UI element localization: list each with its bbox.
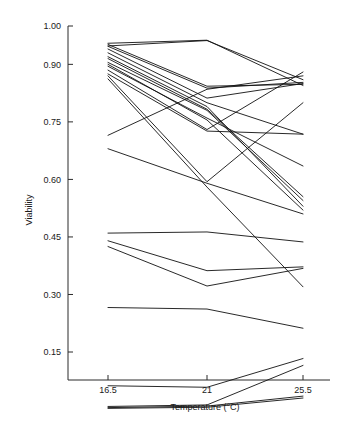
- y-tick-label: 0.75: [43, 117, 61, 127]
- y-tick-label: 0.15: [43, 347, 61, 357]
- viability-temperature-chart: 1.000.900.750.600.450.300.15 16.52125.5 …: [0, 0, 337, 434]
- series-line: [108, 40, 303, 85]
- series-line: [108, 66, 303, 166]
- series-line: [108, 247, 303, 287]
- x-axis-title: Temperature (°C): [170, 402, 239, 412]
- series-line: [108, 241, 303, 271]
- y-axis-title: Viability: [24, 194, 34, 225]
- chart-canvas: 1.000.900.750.600.450.300.15 16.52125.5 …: [0, 0, 337, 434]
- series-line: [108, 308, 303, 329]
- x-tick-label: 16.5: [99, 385, 117, 395]
- y-tick-label: 0.30: [43, 290, 61, 300]
- series-line: [108, 359, 303, 388]
- series-line: [108, 57, 303, 207]
- y-tick-label: 0.60: [43, 175, 61, 185]
- y-axis-ticks: 1.000.900.750.600.450.300.15: [43, 21, 73, 357]
- x-tick-label: 25.5: [294, 385, 312, 395]
- series-lines: [108, 40, 303, 408]
- series-line: [108, 74, 303, 134]
- series-line: [108, 149, 303, 214]
- series-line: [108, 70, 303, 129]
- x-axis-ticks: 16.52125.5: [99, 375, 312, 395]
- series-line: [108, 64, 303, 210]
- y-tick-label: 0.90: [43, 60, 61, 70]
- y-tick-label: 1.00: [43, 21, 61, 31]
- series-line: [108, 232, 303, 242]
- y-tick-label: 0.45: [43, 232, 61, 242]
